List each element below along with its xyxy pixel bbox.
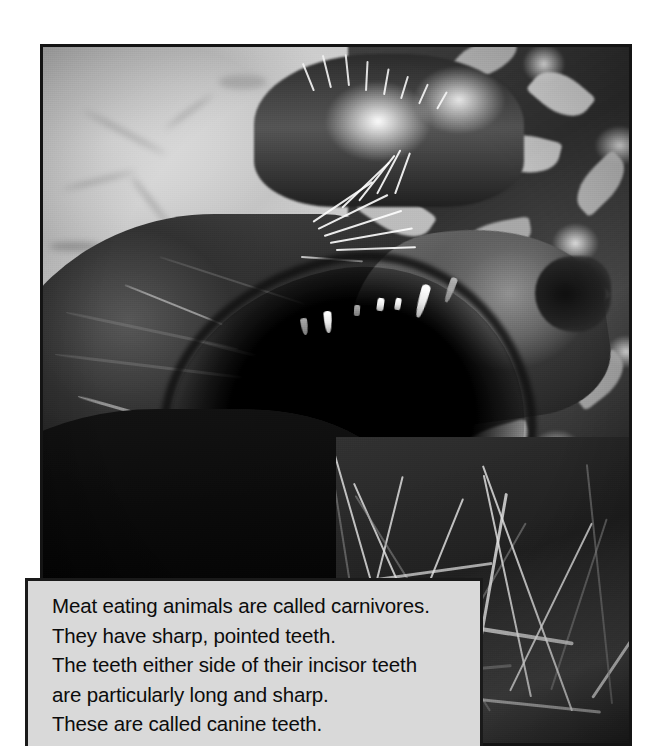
grass-blade (586, 465, 613, 704)
lion-nose (535, 256, 611, 333)
leaf (526, 60, 596, 128)
caption-line: are particularly long and sharp. (52, 680, 480, 710)
dry-twig (472, 697, 601, 713)
caption-line: The teeth either side of their incisor t… (52, 650, 480, 680)
caption-box: Meat eating animals are called carnivore… (25, 578, 483, 746)
caption-line: They have sharp, pointed teeth. (52, 621, 480, 651)
background-branch (219, 75, 266, 89)
head-crest-fur (254, 54, 524, 207)
caption-line: Meat eating animals are called carnivore… (52, 591, 480, 621)
caption-line: These are called canine teeth. (52, 709, 480, 739)
grass-blade (509, 522, 593, 691)
page-canvas: Meat eating animals are called carnivore… (0, 0, 668, 746)
leaf (567, 150, 629, 217)
upper-incisor-tooth (353, 304, 360, 315)
